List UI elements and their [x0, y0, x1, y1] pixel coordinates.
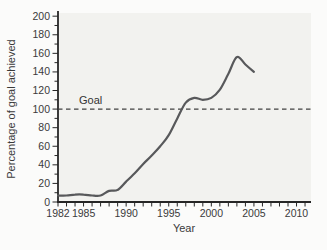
y-axis-title: Percentage of goal achieved: [5, 39, 17, 178]
y-tick-label: 200: [32, 10, 50, 22]
plot-area: [58, 13, 311, 202]
x-axis-title: Year: [173, 222, 196, 234]
y-tick-label: 80: [38, 121, 50, 133]
chart-canvas: 0204060801001201401601802001982198519901…: [0, 0, 327, 250]
x-tick-label: 2010: [285, 207, 309, 219]
x-tick-label: 2005: [242, 207, 266, 219]
y-tick-label: 0: [44, 196, 50, 208]
x-tick-label: 2000: [200, 207, 224, 219]
y-tick-label: 180: [32, 28, 50, 40]
x-tick-label: 1995: [157, 207, 181, 219]
x-tick-label: 1985: [72, 207, 96, 219]
line-chart-figure: 0204060801001201401601802001982198519901…: [0, 0, 327, 250]
goal-label: Goal: [79, 94, 102, 106]
y-tick-label: 40: [38, 158, 50, 170]
y-tick-label: 100: [32, 103, 50, 115]
y-tick-label: 140: [32, 65, 50, 77]
x-tick-label: 1990: [114, 207, 138, 219]
x-tick-label: 1982: [46, 207, 70, 219]
y-tick-label: 120: [32, 84, 50, 96]
y-tick-label: 60: [38, 140, 50, 152]
y-tick-label: 20: [38, 177, 50, 189]
y-tick-label: 160: [32, 47, 50, 59]
